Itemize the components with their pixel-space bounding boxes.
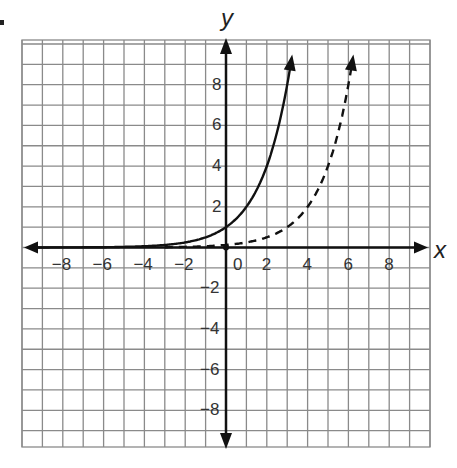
x-axis-arrow-right-icon <box>414 242 428 254</box>
y-tick-label: 4 <box>212 157 221 174</box>
x-tick-label: 8 <box>384 256 393 273</box>
y-tick-label: −8 <box>200 401 219 418</box>
x-tick-label: −6 <box>93 256 112 273</box>
y-tick-label: 6 <box>212 116 221 133</box>
x-tick-label: 0 <box>233 256 242 273</box>
x-tick-label: 6 <box>343 256 352 273</box>
solid-curve <box>32 61 291 248</box>
x-tick-label: 4 <box>303 256 312 273</box>
x-tick-label: −2 <box>174 256 193 273</box>
dashed-curve <box>165 61 353 248</box>
x-axis-label: x <box>434 238 446 262</box>
y-tick-label: −4 <box>200 320 219 337</box>
graph <box>0 0 457 468</box>
x-tick-label: −4 <box>133 256 152 273</box>
y-tick-label: −2 <box>200 279 219 296</box>
y-tick-label: 8 <box>212 76 221 93</box>
y-tick-label: 2 <box>212 198 221 215</box>
dashed-curve-arrow-icon <box>345 55 357 72</box>
y-axis-label: y <box>221 6 233 30</box>
x-tick-label: −8 <box>52 256 71 273</box>
y-tick-label: −6 <box>200 361 219 378</box>
solid-curve-arrow-icon <box>284 55 296 72</box>
x-tick-label: 2 <box>262 256 271 273</box>
